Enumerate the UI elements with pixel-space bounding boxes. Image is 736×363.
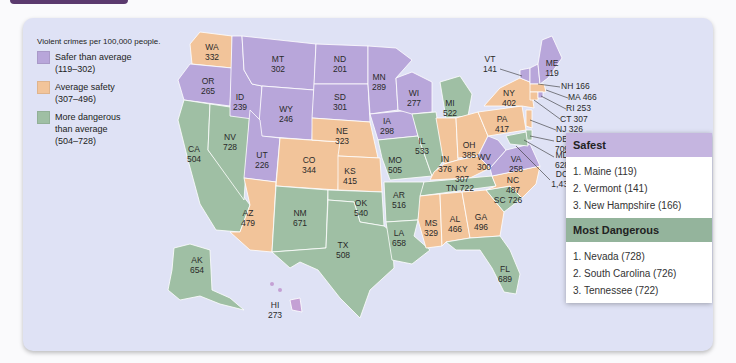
state-value-NY: 402 [502,98,516,108]
state-value-WA: 332 [205,52,219,62]
state-value-FL: 689 [498,274,512,284]
state-label-MA: MA 466 [568,92,597,102]
leader-VT [500,69,522,76]
leader-CT [534,100,560,119]
state-abbr-NE: NE [336,126,348,136]
state-abbr-HI: HI [271,300,280,310]
state-value-WI: 277 [407,98,421,108]
legend-title: Violent crimes per 100,000 people. [37,37,197,46]
state-RI[interactable] [538,92,543,98]
state-NJ[interactable] [526,110,532,128]
leader-RI [541,96,566,109]
state-HI-islands [270,282,274,286]
state-AK[interactable] [168,244,244,310]
state-abbr-VT: VT [485,54,496,64]
state-value-AK: 654 [190,265,204,275]
state-value-ID: 239 [233,102,247,112]
state-value-MO: 505 [388,165,402,175]
safest-item-3: 3. New Hampshire (166) [573,197,705,214]
state-abbr-WI: WI [409,88,419,98]
state-value-AZ: 479 [241,218,255,228]
top-tab-bar [10,0,128,4]
state-label-TN: TN 722 [446,183,474,193]
state-abbr-NV: NV [224,132,236,142]
state-value-MN: 289 [372,82,386,92]
state-value-IN: 376 [438,164,452,174]
state-label-CT: CT 307 [560,114,588,124]
state-abbr-OK: OK [355,198,368,208]
safest-item-2: 2. Vermont (141) [573,180,705,197]
state-value-MI: 522 [443,108,457,118]
legend-item-danger: More dangerous than average (504–728) [37,111,197,147]
state-abbr-ND: ND [334,54,346,64]
state-value-OR: 265 [201,86,215,96]
state-abbr-IL: IL [418,136,425,146]
state-value-VT: 141 [483,64,497,74]
state-value-LA: 658 [392,238,406,248]
state-abbr-OH: OH [463,140,476,150]
state-abbr-AL: AL [450,214,461,224]
state-abbr-MI: MI [445,98,454,108]
state-value-NE: 323 [335,136,349,146]
leader-NJ [530,120,556,130]
legend-label-safe: Safer than average (119–302) [55,51,132,75]
dangerous-item-3: 3. Tennessee (722) [573,282,705,299]
state-abbr-VA: VA [511,154,522,164]
state-abbr-MN: MN [372,72,385,82]
safest-list: 1. Maine (119) 2. Vermont (141) 3. New H… [566,157,712,218]
state-value-IA: 298 [380,126,394,136]
state-value-ME: 119 [545,68,559,78]
state-value-VA: 258 [509,164,523,174]
state-value-AL: 466 [448,224,462,234]
safest-header: Safest [566,133,712,157]
state-abbr-IN: IN [441,154,450,164]
legend-label-danger: More dangerous than average (504–728) [55,111,121,147]
state-abbr-WY: WY [279,104,293,114]
state-label-NH: NH 166 [561,81,590,91]
state-CT[interactable] [530,92,538,100]
rankings-box: Safest 1. Maine (119) 2. Vermont (141) 3… [566,133,712,303]
state-abbr-ID: ID [236,92,245,102]
state-value-PA: 417 [495,124,509,134]
state-value-NC: 487 [506,185,520,195]
state-HI[interactable] [290,298,302,312]
state-abbr-MS: MS [425,218,438,228]
state-abbr-PA: PA [497,114,508,124]
state-HI-islands [278,288,282,292]
state-value-SD: 301 [333,102,347,112]
state-abbr-MO: MO [388,155,402,165]
map-legend: Violent crimes per 100,000 people. Safer… [37,37,197,153]
state-abbr-CO: CO [303,155,316,165]
legend-label-average: Average safety (307–496) [55,81,115,105]
state-value-GA: 496 [474,222,488,232]
safest-item-1: 1. Maine (119) [573,163,705,180]
state-MA[interactable] [530,84,546,92]
state-abbr-NC: NC [507,175,519,185]
state-value-AR: 516 [392,200,406,210]
state-abbr-AR: AR [393,190,405,200]
state-abbr-FL: FL [500,264,510,274]
state-value-CA: 504 [187,154,201,164]
state-value-MS: 329 [424,228,438,238]
leader-DE [530,136,554,141]
state-abbr-GA: GA [475,212,488,222]
state-abbr-KS: KS [344,166,356,176]
state-MD[interactable] [506,132,528,146]
most-dangerous-list: 1. Nevada (728) 2. South Carolina (726) … [566,242,712,303]
state-abbr-OR: OR [202,76,215,86]
state-value-CO: 344 [302,165,316,175]
state-value-UT: 226 [255,160,269,170]
dangerous-item-1: 1. Nevada (728) [573,248,705,265]
state-label-RI: RI 253 [566,103,591,113]
state-abbr-NM: NM [293,208,306,218]
state-abbr-SD: SD [334,92,346,102]
state-value-HI: 273 [268,310,282,320]
state-abbr-KY: KY [456,164,468,174]
state-abbr-LA: LA [394,228,405,238]
legend-swatch-danger [37,111,50,124]
legend-item-safe: Safer than average (119–302) [37,51,197,75]
state-value-TX: 508 [336,250,350,260]
state-value-OH: 385 [462,150,476,160]
state-value-IL: 533 [415,146,429,156]
state-abbr-ME: ME [546,58,559,68]
